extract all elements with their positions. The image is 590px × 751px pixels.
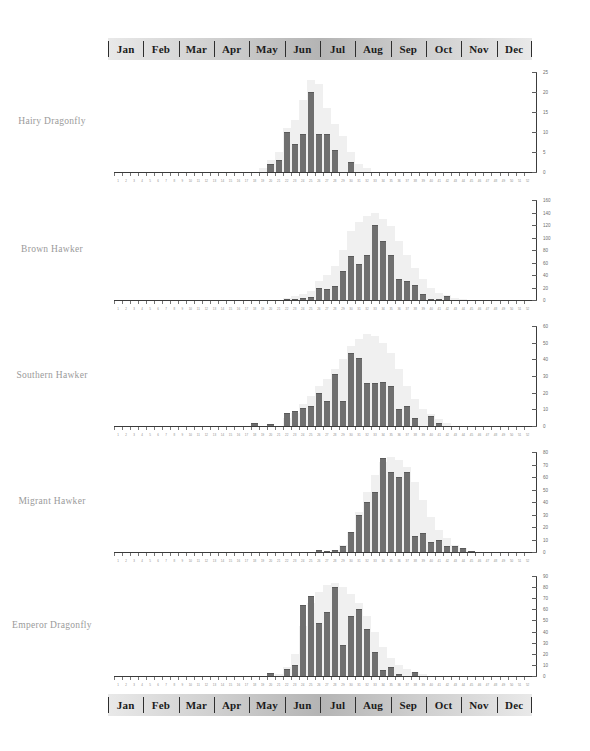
bar-slot[interactable] [516, 72, 524, 172]
bar-slot[interactable] [234, 326, 242, 426]
bar-slot[interactable] [307, 326, 315, 426]
bar-slot[interactable] [275, 72, 283, 172]
bar-slot[interactable] [162, 326, 170, 426]
bar[interactable] [332, 374, 338, 426]
bar-slot[interactable] [508, 72, 516, 172]
bar-slot[interactable] [323, 326, 331, 426]
bar-slot[interactable] [387, 200, 395, 300]
bar[interactable] [300, 134, 306, 172]
bar-slot[interactable] [259, 326, 267, 426]
bar-slot[interactable] [347, 576, 355, 676]
bar-slot[interactable] [516, 326, 524, 426]
bar-slot[interactable] [291, 576, 299, 676]
bar[interactable] [412, 418, 418, 426]
bar-slot[interactable] [403, 576, 411, 676]
bar[interactable] [292, 665, 298, 676]
bar[interactable] [436, 540, 442, 553]
bar-slot[interactable] [443, 72, 451, 172]
bar-slot[interactable] [275, 452, 283, 552]
bar-slot[interactable] [114, 452, 122, 552]
bar-slot[interactable] [178, 326, 186, 426]
bar-slot[interactable] [307, 72, 315, 172]
bar[interactable] [348, 532, 354, 552]
bar-slot[interactable] [218, 200, 226, 300]
bar-slot[interactable] [186, 326, 194, 426]
bar-slot[interactable] [194, 576, 202, 676]
bar-slot[interactable] [130, 452, 138, 552]
bar-slot[interactable] [130, 200, 138, 300]
bar-slot[interactable] [122, 452, 130, 552]
bar-slot[interactable] [516, 576, 524, 676]
bar-slot[interactable] [451, 576, 459, 676]
bar[interactable] [372, 652, 378, 676]
bar[interactable] [364, 629, 370, 676]
bar-slot[interactable] [186, 72, 194, 172]
bar-slot[interactable] [267, 200, 275, 300]
bar-slot[interactable] [387, 326, 395, 426]
bar-slot[interactable] [508, 200, 516, 300]
bar-slot[interactable] [138, 326, 146, 426]
bar-slot[interactable] [202, 200, 210, 300]
bar-slot[interactable] [283, 72, 291, 172]
bar[interactable] [364, 502, 370, 552]
bar[interactable] [388, 386, 394, 426]
bar[interactable] [404, 472, 410, 552]
bar[interactable] [412, 536, 418, 552]
bar-slot[interactable] [371, 200, 379, 300]
bar-slot[interactable] [299, 72, 307, 172]
bar-slot[interactable] [243, 72, 251, 172]
bar-slot[interactable] [323, 72, 331, 172]
bar-slot[interactable] [443, 452, 451, 552]
bar-slot[interactable] [483, 576, 491, 676]
bar-slot[interactable] [138, 72, 146, 172]
bar-slot[interactable] [154, 452, 162, 552]
bar-slot[interactable] [435, 576, 443, 676]
bar-slot[interactable] [403, 200, 411, 300]
bar[interactable] [267, 164, 273, 172]
bar-slot[interactable] [355, 452, 363, 552]
bar-slot[interactable] [218, 452, 226, 552]
bar-slot[interactable] [347, 72, 355, 172]
bar-slot[interactable] [170, 326, 178, 426]
bar-slot[interactable] [226, 72, 234, 172]
bar-slot[interactable] [411, 452, 419, 552]
bar-slot[interactable] [251, 576, 259, 676]
bar-slot[interactable] [291, 452, 299, 552]
bar[interactable] [292, 411, 298, 426]
bar-slot[interactable] [275, 326, 283, 426]
bar-slot[interactable] [218, 576, 226, 676]
bar[interactable] [348, 353, 354, 426]
bar-slot[interactable] [339, 326, 347, 426]
bar-slot[interactable] [154, 326, 162, 426]
bar-slot[interactable] [186, 452, 194, 552]
bar-slot[interactable] [218, 72, 226, 172]
bar-slot[interactable] [114, 200, 122, 300]
bar-slot[interactable] [500, 576, 508, 676]
bar-slot[interactable] [202, 326, 210, 426]
bar-slot[interactable] [363, 452, 371, 552]
bar[interactable] [372, 492, 378, 552]
bar-slot[interactable] [419, 452, 427, 552]
bar-slot[interactable] [524, 200, 532, 300]
bar-slot[interactable] [339, 200, 347, 300]
bar[interactable] [372, 225, 378, 300]
bar-slot[interactable] [226, 326, 234, 426]
bar-slot[interactable] [275, 200, 283, 300]
bar-slot[interactable] [283, 326, 291, 426]
bar-slot[interactable] [508, 452, 516, 552]
bar-slot[interactable] [259, 200, 267, 300]
bar[interactable] [380, 382, 386, 426]
bar-slot[interactable] [307, 576, 315, 676]
bar-slot[interactable] [467, 452, 475, 552]
bar-slot[interactable] [371, 72, 379, 172]
bar-slot[interactable] [339, 452, 347, 552]
bar-slot[interactable] [403, 326, 411, 426]
bar[interactable] [420, 533, 426, 552]
bar-slot[interactable] [283, 452, 291, 552]
bar-slot[interactable] [475, 576, 483, 676]
bar-slot[interactable] [524, 452, 532, 552]
bar[interactable] [412, 285, 418, 300]
bar-slot[interactable] [226, 200, 234, 300]
bar[interactable] [428, 542, 434, 552]
bar-slot[interactable] [146, 576, 154, 676]
